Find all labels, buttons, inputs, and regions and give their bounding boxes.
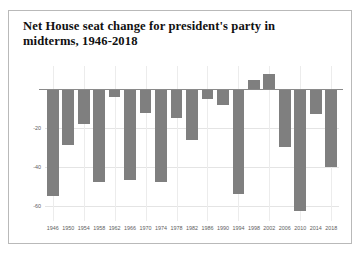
bar xyxy=(155,89,167,182)
x-tick-label: 1998 xyxy=(248,225,260,231)
bar xyxy=(93,89,105,182)
bar xyxy=(325,89,337,167)
plot-area: -20-40-60 xyxy=(45,66,339,221)
x-tick-label: 1958 xyxy=(93,225,105,231)
zero-axis-line xyxy=(39,89,343,90)
x-tick-label: 1986 xyxy=(201,225,213,231)
x-tick-label: 2014 xyxy=(310,225,322,231)
x-axis-ticks: 1946195019541958196219661970197419781982… xyxy=(45,225,339,239)
x-tick-label: 1966 xyxy=(124,225,136,231)
x-tick-label: 1982 xyxy=(186,225,198,231)
bar xyxy=(294,89,306,211)
bar xyxy=(217,89,229,105)
bar xyxy=(109,89,121,97)
bar xyxy=(186,89,198,139)
y-tick-label: -20 xyxy=(33,125,41,131)
x-tick-label: 2006 xyxy=(279,225,291,231)
y-tick-label: -60 xyxy=(33,203,41,209)
chart-figure: Net House seat change for president's pa… xyxy=(8,10,352,244)
x-tick-label: 2018 xyxy=(325,225,337,231)
bar xyxy=(47,89,59,196)
x-tick-label: 1994 xyxy=(232,225,244,231)
x-tick-label: 1946 xyxy=(47,225,59,231)
bar xyxy=(202,89,214,99)
x-tick-label: 1974 xyxy=(155,225,167,231)
bar xyxy=(78,89,90,124)
bar xyxy=(62,89,74,145)
bar xyxy=(171,89,183,118)
bar xyxy=(263,74,275,90)
bar xyxy=(140,89,152,112)
x-tick-label: 1954 xyxy=(78,225,90,231)
x-tick-label: 2002 xyxy=(263,225,275,231)
bar xyxy=(310,89,322,114)
x-tick-label: 1978 xyxy=(171,225,183,231)
bar xyxy=(233,89,245,194)
bar xyxy=(279,89,291,147)
x-tick-label: 1970 xyxy=(140,225,152,231)
bar xyxy=(124,89,136,180)
y-tick-label: -40 xyxy=(33,164,41,170)
x-tick-label: 1950 xyxy=(62,225,74,231)
bar xyxy=(248,80,260,90)
x-tick-label: 1990 xyxy=(217,225,229,231)
chart-title: Net House seat change for president's pa… xyxy=(23,19,333,50)
x-tick-label: 1962 xyxy=(109,225,121,231)
x-tick-label: 2010 xyxy=(294,225,306,231)
